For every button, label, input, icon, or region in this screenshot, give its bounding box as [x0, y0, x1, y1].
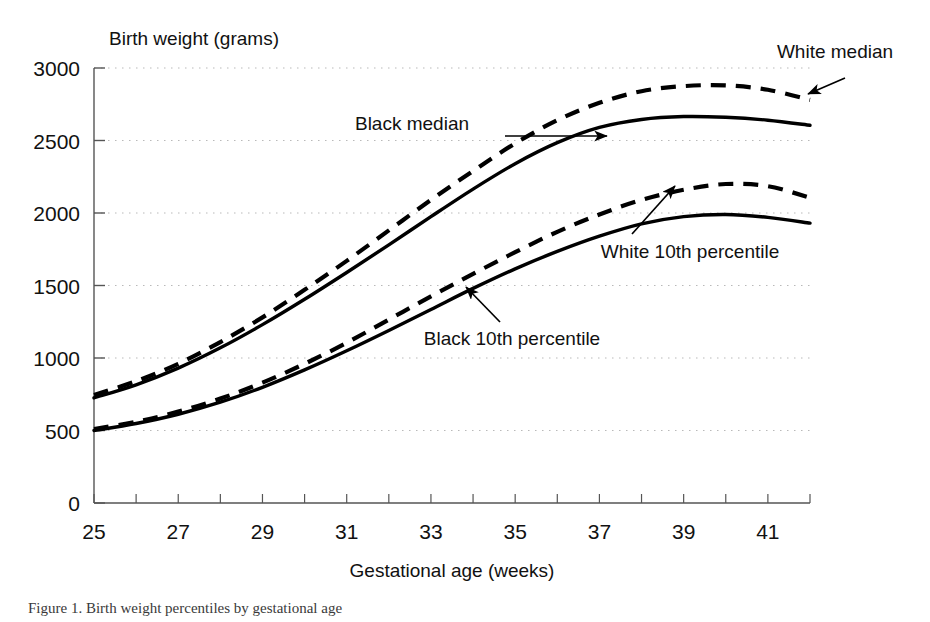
- x-tick-label: 27: [167, 520, 190, 543]
- y-tick-label: 1500: [33, 275, 80, 298]
- x-tick-label: 41: [756, 520, 779, 543]
- x-tick-group: [94, 494, 810, 503]
- y-tick-label: 1000: [33, 347, 80, 370]
- y-tick-label: 0: [68, 492, 80, 515]
- y-tick-label: 3000: [33, 57, 80, 80]
- birth-weight-chart: 050010001500200025003000 252729313335373…: [0, 0, 930, 600]
- annotation-arrow: [632, 186, 675, 234]
- series-line-white-10th-percentile: [94, 184, 810, 429]
- y-axis-title: Birth weight (grams): [109, 28, 279, 49]
- y-tick-label: 2500: [33, 130, 80, 153]
- x-tick-label: 31: [335, 520, 358, 543]
- figure-container: 050010001500200025003000 252729313335373…: [0, 0, 930, 622]
- annotation-label: Black median: [355, 113, 469, 134]
- x-tick-label: 37: [588, 520, 611, 543]
- y-tick-label: 500: [45, 420, 80, 443]
- annotation-arrow: [466, 287, 500, 322]
- annotations-group: White medianBlack medianWhite 10th perce…: [355, 41, 893, 349]
- y-tick-label: 2000: [33, 202, 80, 225]
- annotation-label: White 10th percentile: [601, 241, 780, 262]
- x-tick-label: 35: [503, 520, 526, 543]
- y-tick-group: [94, 68, 105, 503]
- x-tick-labels: 252729313335373941: [82, 520, 779, 543]
- x-tick-label: 29: [251, 520, 274, 543]
- annotation-label: White median: [777, 41, 893, 62]
- figure-caption: Figure 1. Birth weight percentiles by ge…: [28, 600, 908, 622]
- x-tick-label: 33: [419, 520, 442, 543]
- annotation-label: Black 10th percentile: [424, 328, 600, 349]
- x-tick-label: 25: [82, 520, 105, 543]
- y-tick-labels: 050010001500200025003000: [33, 57, 80, 515]
- annotation-arrow: [808, 78, 845, 94]
- x-tick-label: 39: [672, 520, 695, 543]
- x-axis-title: Gestational age (weeks): [350, 560, 555, 581]
